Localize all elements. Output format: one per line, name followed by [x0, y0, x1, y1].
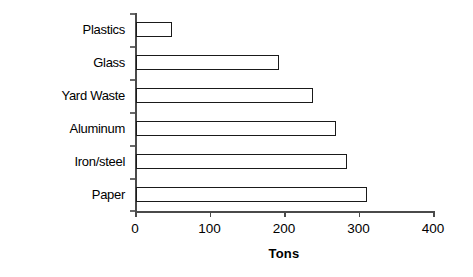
y-axis-line [135, 13, 137, 211]
x-tick-label-300: 300 [347, 219, 370, 239]
category-label-plastics: Plastics [83, 21, 125, 39]
category-label-aluminum: Aluminum [70, 120, 125, 138]
y-axis-tick [130, 13, 135, 15]
x-tick-label-100: 100 [198, 219, 221, 239]
y-axis-tick [130, 145, 135, 147]
x-axis-tick [210, 211, 212, 217]
x-axis-tick [433, 211, 435, 217]
bar-yard-waste [136, 88, 313, 103]
category-label-list: PlasticsGlassYard WasteAluminumIron/stee… [22, 13, 130, 211]
y-axis-tick [130, 79, 135, 81]
x-tick-label-400: 400 [422, 219, 445, 239]
y-axis-tick [130, 46, 135, 48]
x-axis-tick [284, 211, 286, 217]
x-axis-title: Tons [135, 246, 433, 261]
x-axis-tick-labels: 0100200300400 [135, 219, 445, 239]
bar-glass [136, 55, 279, 70]
plot-area [135, 13, 433, 211]
category-label-glass: Glass [93, 54, 125, 72]
x-tick-label-200: 200 [273, 219, 296, 239]
y-axis-tick [130, 178, 135, 180]
bar-chart: Type of Waste PlasticsGlassYard WasteAlu… [0, 0, 473, 277]
category-label-yard-waste: Yard Waste [62, 87, 125, 105]
x-axis-tick [359, 211, 361, 217]
bar-aluminum [136, 121, 336, 136]
y-axis-title: Type of Waste [2, 0, 20, 40]
category-label-paper: Paper [92, 186, 125, 204]
y-axis-tick [130, 112, 135, 114]
bar-plastics [136, 22, 172, 37]
x-axis-tick [135, 211, 137, 217]
bar-iron-steel [136, 154, 347, 169]
x-tick-label-0: 0 [131, 219, 139, 239]
bar-paper [136, 187, 367, 202]
category-label-iron-steel: Iron/steel [75, 153, 125, 171]
